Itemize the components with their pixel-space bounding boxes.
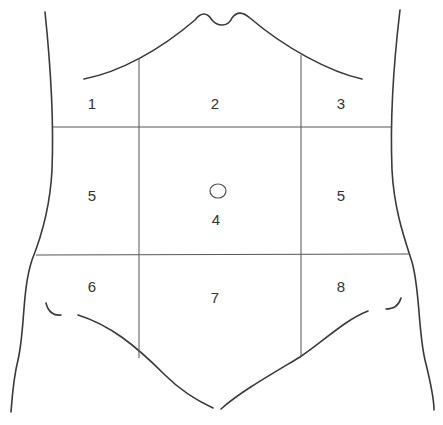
region-label-3: 3 — [337, 95, 345, 112]
region-label-6: 6 — [88, 278, 96, 295]
region-label-5-left: 5 — [88, 187, 96, 204]
region-label-4: 4 — [212, 211, 220, 228]
region-label-1: 1 — [88, 95, 96, 112]
navel-icon — [210, 184, 226, 198]
costal-margin-outline — [84, 13, 362, 79]
right-inguinal-line — [221, 311, 368, 409]
region-label-8: 8 — [337, 278, 345, 295]
right-hip-crease — [386, 298, 401, 309]
region-label-2: 2 — [211, 95, 219, 112]
left-inguinal-line — [78, 315, 213, 408]
torso-right-outline — [391, 10, 434, 410]
left-hip-crease — [46, 303, 61, 315]
torso-left-outline — [11, 12, 53, 412]
region-label-7: 7 — [211, 289, 219, 306]
horizontal-line-lower — [36, 254, 409, 255]
region-label-5-right: 5 — [337, 187, 345, 204]
abdominal-regions-diagram: 1 2 3 5 4 5 6 7 8 — [0, 0, 443, 425]
